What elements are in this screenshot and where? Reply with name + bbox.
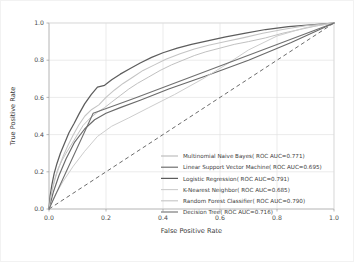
x-tick-label-4: 0.8 — [272, 214, 282, 221]
legend-label-3: K-Nearest Neighbor( ROC AUC=0.685) — [183, 187, 290, 194]
legend-label-4: Random Forest Classifier( ROC AUC=0.790) — [183, 198, 305, 204]
legend-item-4[interactable]: Random Forest Classifier( ROC AUC=0.790) — [161, 198, 305, 204]
x-tick-label-2: 0.4 — [158, 214, 168, 221]
x-tick-label-5: 1.0 — [329, 214, 339, 221]
legend-label-0: Multinomial Naive Bayes( ROC AUC=0.771) — [183, 153, 305, 160]
legend-item-1[interactable]: Linear Support Vector Machine( ROC AUC=0… — [161, 164, 322, 171]
legend-label-1: Linear Support Vector Machine( ROC AUC=0… — [183, 164, 322, 171]
y-tick-label-3: 0.6 — [34, 94, 44, 101]
roc-chart-figure: 0.00.20.40.60.81.00.00.20.40.60.81.0Fals… — [0, 0, 354, 262]
y-axis-title: True Positive Rate — [9, 87, 17, 147]
y-tick-label-2: 0.4 — [34, 131, 44, 138]
legend-item-0[interactable]: Multinomial Naive Bayes( ROC AUC=0.771) — [161, 153, 305, 160]
legend-label-5: Decision Tree( ROC AUC=0.716) — [183, 209, 273, 215]
roc-plot-svg: 0.00.20.40.60.81.00.00.20.40.60.81.0Fals… — [1, 1, 354, 262]
x-tick-label-0: 0.0 — [44, 214, 54, 221]
y-tick-label-0: 0.0 — [34, 205, 44, 212]
y-tick-label-5: 1.0 — [34, 19, 44, 26]
x-tick-label-1: 0.2 — [101, 214, 111, 221]
x-axis-title: False Positive Rate — [161, 227, 222, 235]
legend-label-2: Logistic Regression( ROC AUC=0.791) — [183, 176, 289, 183]
y-tick-label-1: 0.2 — [34, 168, 44, 175]
legend-item-5[interactable]: Decision Tree( ROC AUC=0.716) — [161, 209, 273, 215]
y-tick-label-4: 0.8 — [34, 56, 44, 63]
